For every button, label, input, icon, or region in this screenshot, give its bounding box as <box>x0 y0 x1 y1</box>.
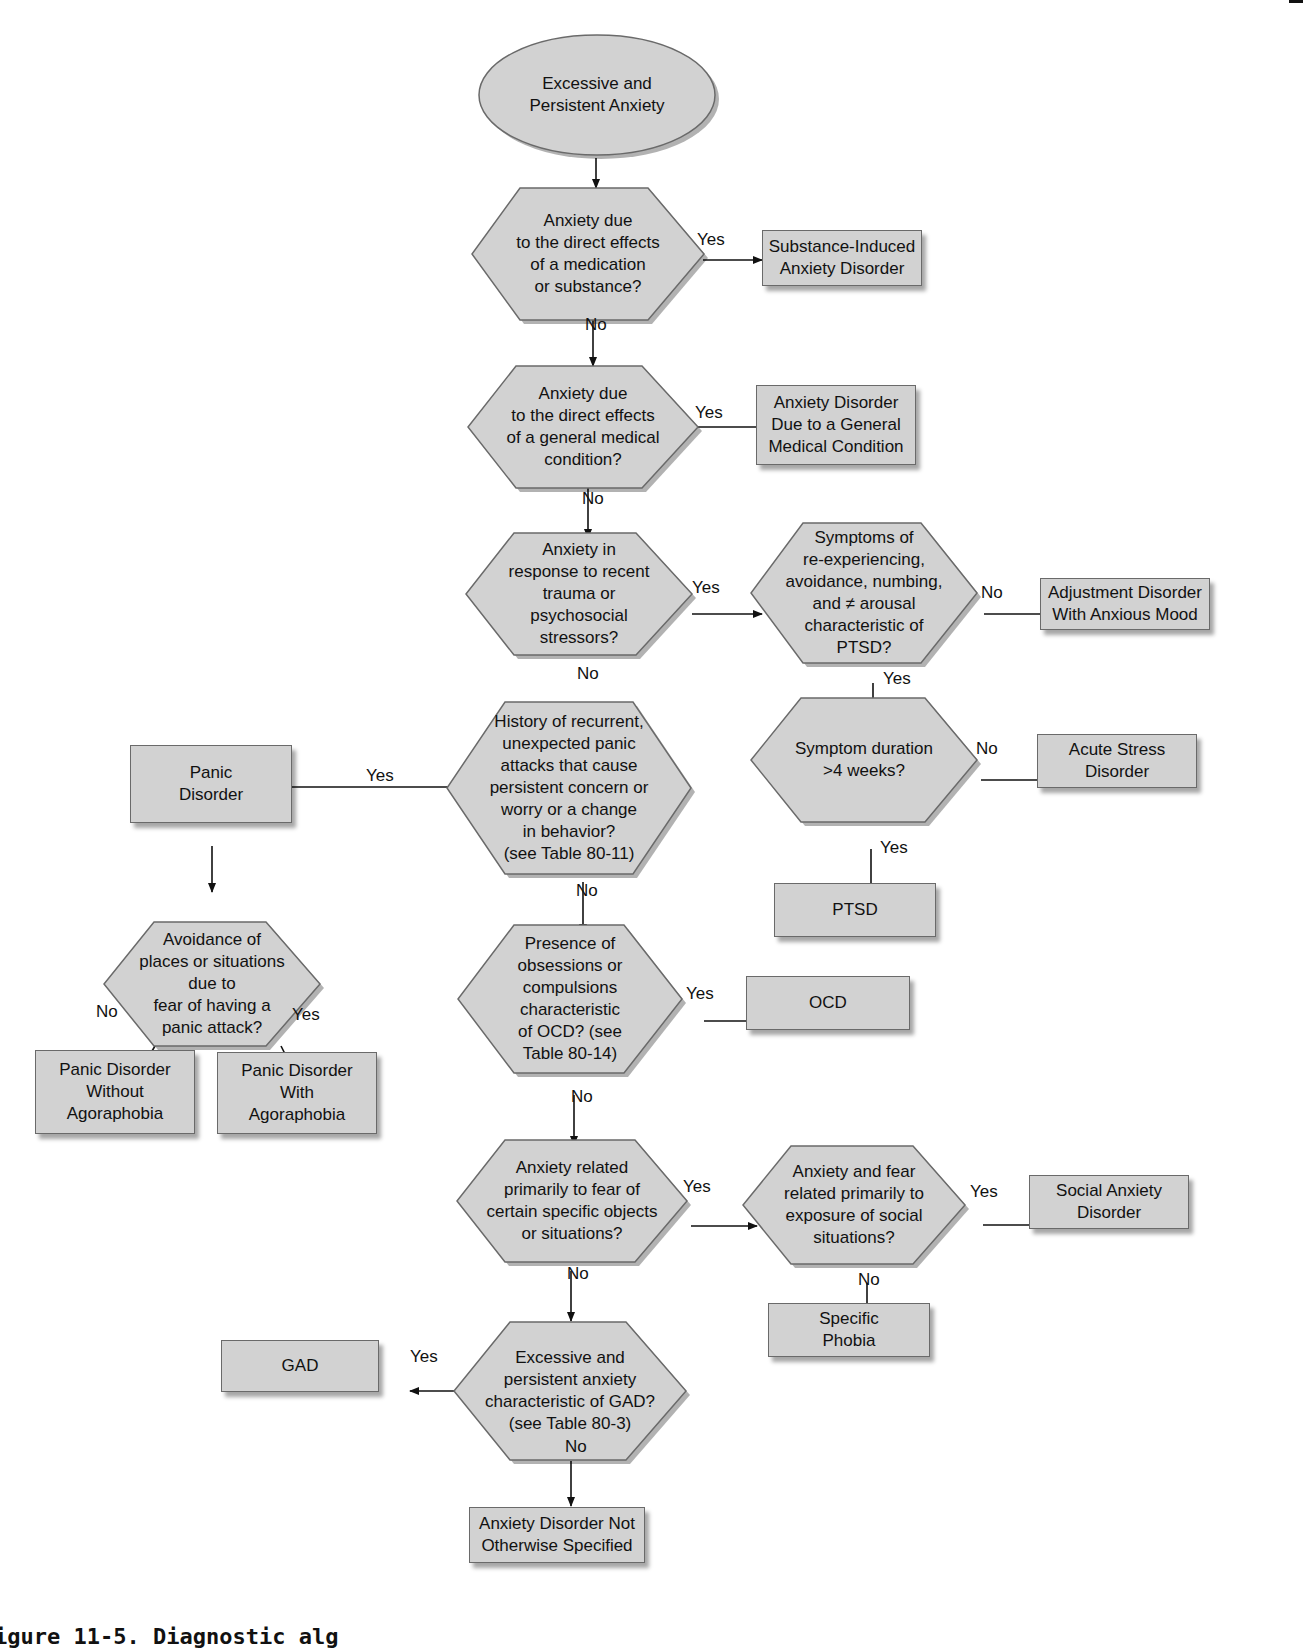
result-gad: GAD <box>221 1340 379 1392</box>
start-node-label: Excessive and Persistent Anxiety <box>477 33 717 157</box>
edge-label-medical-yes: Yes <box>695 403 723 423</box>
decision-specific-objects: Anxiety related primarily to fear of cer… <box>457 1140 687 1262</box>
decision-social-label: Anxiety and fear related primarily to ex… <box>743 1146 965 1264</box>
decision-avoidance: Avoidance of places or situations due to… <box>104 922 320 1046</box>
result-medical-condition: Anxiety Disorder Due to a General Medica… <box>756 385 916 465</box>
decision-ptsd-symptoms-label: Symptoms of re-experiencing, avoidance, … <box>751 523 977 663</box>
edge-label-trauma-yes: Yes <box>692 578 720 598</box>
decision-ptsd-symptoms: Symptoms of re-experiencing, avoidance, … <box>751 523 977 663</box>
decision-substance-label: Anxiety due to the direct effects of a m… <box>472 188 704 320</box>
result-panic-with-agoraphobia: Panic Disorder With Agoraphobia <box>217 1052 377 1134</box>
edge-label-substance-yes: Yes <box>697 230 725 250</box>
decision-panic-attacks-label: History of recurrent, unexpected panic a… <box>447 702 691 874</box>
decision-medical-label: Anxiety due to the direct effects of a g… <box>468 366 698 488</box>
decision-trauma-label: Anxiety in response to recent trauma or … <box>466 533 692 655</box>
edge-label-trauma-no: No <box>577 664 599 684</box>
result-panic-without-agoraphobia: Panic Disorder Without Agoraphobia <box>35 1050 195 1134</box>
edge-label-gad-yes: Yes <box>410 1347 438 1367</box>
edge-label-social-no: No <box>858 1270 880 1290</box>
result-acute-stress: Acute Stress Disorder <box>1037 734 1197 788</box>
decision-ocd: Presence of obsessions or compulsions ch… <box>458 925 682 1073</box>
edge-label-medical-no: No <box>582 489 604 509</box>
edge-label-ocd-no: No <box>571 1087 593 1107</box>
decision-specific-objects-label: Anxiety related primarily to fear of cer… <box>457 1140 687 1262</box>
edge-label-panic-no: No <box>576 881 598 901</box>
edge-label-ptsd-symptoms-yes: Yes <box>883 669 911 689</box>
result-ptsd: PTSD <box>774 883 936 937</box>
result-substance-induced: Substance-Induced Anxiety Disorder <box>762 230 922 286</box>
edge-label-social-yes: Yes <box>970 1182 998 1202</box>
decision-social: Anxiety and fear related primarily to ex… <box>743 1146 965 1264</box>
edge-label-avoidance-no: No <box>96 1002 118 1022</box>
edge-label-specific-yes: Yes <box>683 1177 711 1197</box>
result-anxiety-nos: Anxiety Disorder Not Otherwise Specified <box>469 1507 645 1563</box>
decision-duration-label: Symptom duration >4 weeks? <box>751 698 977 822</box>
decision-ocd-label: Presence of obsessions or compulsions ch… <box>458 925 682 1073</box>
edge-label-ocd-yes: Yes <box>686 984 714 1004</box>
result-ocd: OCD <box>746 976 910 1030</box>
start-node: Excessive and Persistent Anxiety <box>477 33 721 157</box>
decision-trauma: Anxiety in response to recent trauma or … <box>466 533 692 655</box>
edge-label-duration-no: No <box>976 739 998 759</box>
decision-duration: Symptom duration >4 weeks? <box>751 698 977 822</box>
edge-label-avoidance-yes: Yes <box>292 1005 320 1025</box>
result-specific-phobia: Specific Phobia <box>768 1303 930 1357</box>
figure-caption: igure 11-5. Diagnostic alg <box>0 1624 338 1649</box>
edge-label-substance-no: No <box>585 315 607 335</box>
decision-medical: Anxiety due to the direct effects of a g… <box>468 366 698 488</box>
edge-label-duration-yes: Yes <box>880 838 908 858</box>
edge-label-gad-no: No <box>565 1437 587 1457</box>
edge-label-specific-no: No <box>567 1264 589 1284</box>
result-social-anxiety: Social Anxiety Disorder <box>1029 1175 1189 1229</box>
result-adjustment-disorder: Adjustment Disorder With Anxious Mood <box>1040 578 1210 630</box>
page-corner-mark <box>1289 0 1303 3</box>
edge-label-ptsd-symptoms-no: No <box>981 583 1003 603</box>
result-panic-disorder: Panic Disorder <box>130 745 292 823</box>
decision-panic-attacks: History of recurrent, unexpected panic a… <box>447 702 691 874</box>
decision-avoidance-label: Avoidance of places or situations due to… <box>104 922 320 1046</box>
edge-label-panic-yes: Yes <box>366 766 394 786</box>
decision-substance: Anxiety due to the direct effects of a m… <box>472 188 704 320</box>
